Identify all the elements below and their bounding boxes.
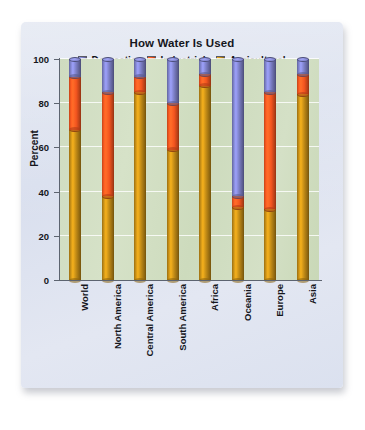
segment-body (167, 59, 179, 103)
y-axis-tick-label: 0 (9, 275, 49, 286)
y-axis-tick-label: 40 (9, 186, 49, 197)
y-axis-tick-label: 60 (9, 142, 49, 153)
segment-top-ellipse (134, 57, 146, 62)
x-axis-label: Asia (307, 284, 318, 304)
segment-body (102, 196, 114, 280)
stacked-bar (167, 59, 179, 280)
y-axis-tick (54, 236, 59, 237)
plot-wrapper: Percent 020406080100WorldNorth AmericaCe… (21, 22, 343, 388)
bar-column (99, 59, 117, 280)
bar-segment-industrial (102, 92, 114, 196)
chart-card: How Water Is Used DomesticIndustrialAgri… (21, 22, 343, 388)
segment-body (69, 77, 81, 130)
segment-top-ellipse (264, 57, 276, 62)
bar-segment-domestic (167, 59, 179, 103)
segment-base-ellipse (102, 194, 114, 199)
segment-body (264, 92, 276, 209)
y-axis-tick (54, 192, 59, 193)
segment-base-ellipse (167, 101, 179, 106)
segment-base-ellipse (264, 90, 276, 95)
stacked-bar (264, 59, 276, 280)
x-axis-label: Oceania (242, 284, 253, 321)
bar-segment-agricultural (232, 207, 244, 280)
segment-body (199, 86, 211, 280)
bar-segment-industrial (264, 92, 276, 209)
x-axis-line (57, 280, 322, 281)
bar-segment-domestic (102, 59, 114, 92)
segment-body (297, 94, 309, 280)
x-axis-label: Central America (144, 284, 155, 357)
segment-base-ellipse (232, 194, 244, 199)
segment-body (232, 59, 244, 196)
bar-column (294, 59, 312, 280)
segment-top-ellipse (232, 57, 244, 62)
segment-body (102, 59, 114, 92)
bar-segment-industrial (134, 77, 146, 92)
y-axis-tick-label: 80 (9, 98, 49, 109)
x-axis-label: Africa (209, 284, 220, 311)
bar-segment-agricultural (199, 86, 211, 280)
segment-body (232, 207, 244, 280)
stacked-bar (134, 59, 146, 280)
bar-column (261, 59, 279, 280)
bar-segment-agricultural (69, 130, 81, 280)
segment-body (69, 130, 81, 280)
segment-body (167, 150, 179, 280)
segment-body (167, 103, 179, 149)
bar-segment-domestic (264, 59, 276, 92)
y-axis-tick (54, 147, 59, 148)
bar-segment-industrial (297, 75, 309, 95)
stacked-bar (297, 59, 309, 280)
y-axis-tick-label: 100 (9, 54, 49, 65)
segment-base-ellipse (297, 72, 309, 77)
bar-segment-domestic (134, 59, 146, 77)
bar-segment-domestic (232, 59, 244, 196)
bar-segment-agricultural (264, 209, 276, 280)
segment-base-ellipse (167, 147, 179, 152)
segment-base-ellipse (232, 205, 244, 210)
bar-segment-agricultural (297, 94, 309, 280)
stacked-bar (102, 59, 114, 280)
segment-base-ellipse (264, 207, 276, 212)
segment-top-ellipse (102, 57, 114, 62)
bar-segment-domestic (69, 59, 81, 77)
stacked-bar (199, 59, 211, 280)
x-axis-label: North America (112, 284, 123, 349)
y-axis-tick (54, 280, 59, 281)
x-axis-label: World (79, 284, 90, 311)
segment-base-ellipse (134, 90, 146, 95)
y-axis-tick (54, 103, 59, 104)
segment-top-ellipse (199, 57, 211, 62)
bar-segment-domestic (199, 59, 211, 74)
segment-body (264, 209, 276, 280)
x-axis-label: South America (177, 284, 188, 351)
bar-column (66, 59, 84, 280)
stacked-bar (232, 59, 244, 280)
bar-segment-industrial (167, 103, 179, 149)
bar-segment-agricultural (167, 150, 179, 280)
y-axis-tick-label: 20 (9, 230, 49, 241)
segment-body (264, 59, 276, 92)
bar-segment-agricultural (134, 92, 146, 280)
bar-segment-industrial (69, 77, 81, 130)
stacked-bar (69, 59, 81, 280)
segment-top-ellipse (167, 57, 179, 62)
segment-top-ellipse (297, 57, 309, 62)
bar-segment-domestic (297, 59, 309, 74)
segment-body (134, 92, 146, 280)
bar-column (229, 59, 247, 280)
segment-top-ellipse (69, 57, 81, 62)
bar-column (196, 59, 214, 280)
segment-body (102, 92, 114, 196)
bar-column (164, 59, 182, 280)
plot-area (59, 59, 319, 280)
bar-segment-agricultural (102, 196, 114, 280)
segment-base-ellipse (102, 90, 114, 95)
y-axis-tick (54, 59, 59, 60)
x-axis-label: Europe (274, 284, 285, 317)
bar-column (131, 59, 149, 280)
segment-base-ellipse (297, 92, 309, 97)
chart-screenshot: How Water Is Used DomesticIndustrialAgri… (0, 0, 365, 430)
y-axis-line (59, 58, 60, 281)
